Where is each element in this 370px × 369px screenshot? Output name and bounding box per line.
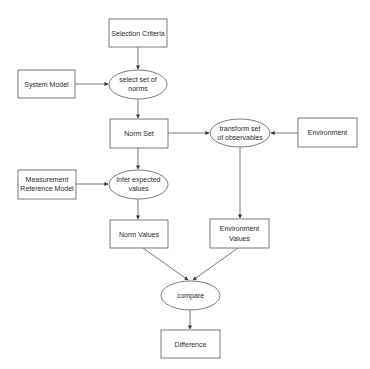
- edge-environment-values-to-compare: [193, 248, 238, 280]
- node-label-line-1: infer expected: [117, 176, 161, 184]
- node-environment: Environment: [298, 118, 357, 147]
- node-infer-expected-values: infer expected values: [109, 170, 168, 199]
- node-selection-criteria: Selection Criteria: [109, 19, 167, 47]
- node-environment-values: Environment Values: [210, 219, 269, 248]
- node-label-line-2: Reference Model: [20, 185, 74, 192]
- node-label-line-2: values: [128, 185, 149, 192]
- node-norm-values: Norm Values: [110, 220, 168, 248]
- node-label-line-2: norms: [128, 85, 148, 92]
- node-label: Environment: [308, 129, 347, 136]
- node-label: Selection Criteria: [111, 30, 164, 37]
- node-label: Difference: [175, 341, 207, 348]
- node-label-line-2: of observables: [217, 134, 263, 141]
- edge-norm-values-to-compare: [143, 248, 188, 280]
- node-label: Norm Values: [119, 231, 159, 238]
- node-system-model: System Model: [18, 70, 75, 98]
- node-label: compare: [177, 292, 204, 300]
- node-difference: Difference: [161, 330, 220, 358]
- node-label-line-2: Values: [229, 235, 250, 242]
- node-label-line-1: transform set: [220, 125, 261, 132]
- node-label-line-1: Environment: [220, 225, 259, 232]
- node-label-line-1: select set of: [119, 76, 156, 83]
- flow-diagram: Selection Criteria System Model select s…: [0, 0, 370, 369]
- node-label: System Model: [24, 81, 69, 89]
- node-select-set-of-norms: select set of norms: [109, 70, 167, 99]
- node-label-line-1: Measurement: [26, 176, 69, 183]
- node-transform-set-of-observables: transform set of observables: [210, 119, 270, 147]
- node-measurement-reference-model: Measurement Reference Model: [18, 170, 76, 199]
- node-label: Norm Set: [124, 130, 154, 137]
- node-compare: compare: [161, 281, 220, 310]
- node-norm-set: Norm Set: [110, 119, 168, 148]
